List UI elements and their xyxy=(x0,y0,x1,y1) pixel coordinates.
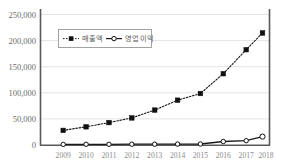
y-tick-200000: 200,000 xyxy=(8,36,36,46)
profit-line xyxy=(63,137,262,145)
x-tick-2015: 2015 xyxy=(193,151,208,160)
x-tick-2010: 2010 xyxy=(79,151,94,160)
y-tick-50000: 50,000 xyxy=(13,114,36,124)
y-tick-250000: 250,000 xyxy=(8,10,36,20)
x-tick-2014: 2014 xyxy=(170,151,185,160)
x-axis-tick-labels: 2009 2010 2011 2012 2013 2014 2015 2016 … xyxy=(56,151,274,160)
y-tick-0: 0 xyxy=(32,140,36,150)
profit-point-2010 xyxy=(84,142,88,146)
legend-label-operating-profit: 영업 이익 xyxy=(125,34,155,43)
profit-point-2018 xyxy=(260,134,265,139)
x-tick-2013: 2013 xyxy=(147,151,162,160)
revenue-point-2018 xyxy=(260,31,265,36)
revenue-point-2014 xyxy=(175,98,180,103)
open-circle-marker xyxy=(112,36,116,40)
y-tick-100000: 100,000 xyxy=(8,88,36,98)
revenue-point-2015 xyxy=(198,91,203,96)
revenue-point-2017 xyxy=(244,47,249,52)
x-tick-2011: 2011 xyxy=(102,151,117,160)
revenue-point-2013 xyxy=(152,108,157,113)
chart-container: 250,000 200,000 150,000 100,000 50,000 0 xyxy=(0,0,289,168)
profit-point-2014 xyxy=(175,142,179,146)
x-tick-2016: 2016 xyxy=(216,151,231,160)
profit-point-2009 xyxy=(61,142,65,146)
profit-point-2013 xyxy=(153,142,157,146)
x-tick-2012: 2012 xyxy=(124,151,139,160)
y-axis-tick-labels: 250,000 200,000 150,000 100,000 50,000 0 xyxy=(8,10,36,151)
chart-legend[interactable]: 매출액 영업 이익 xyxy=(59,30,155,48)
revenue-point-2011 xyxy=(107,120,112,125)
profit-point-2017 xyxy=(244,139,248,143)
revenue-point-2010 xyxy=(84,125,89,130)
y-tick-150000: 150,000 xyxy=(8,62,36,72)
revenue-point-2016 xyxy=(221,71,226,76)
profit-point-2011 xyxy=(107,142,111,146)
filled-square-marker xyxy=(69,36,74,41)
x-tick-2017: 2017 xyxy=(239,151,254,160)
revenue-point-2009 xyxy=(61,128,66,133)
revenue-point-2012 xyxy=(130,116,135,121)
profit-point-2015 xyxy=(198,142,202,146)
legend-label-revenue: 매출액 xyxy=(82,34,103,43)
profit-point-2016 xyxy=(221,139,225,143)
x-tick-2018: 2018 xyxy=(258,151,273,160)
profit-point-2012 xyxy=(130,142,134,146)
x-tick-2009: 2009 xyxy=(56,151,71,160)
line-chart: 250,000 200,000 150,000 100,000 50,000 0 xyxy=(0,0,289,168)
